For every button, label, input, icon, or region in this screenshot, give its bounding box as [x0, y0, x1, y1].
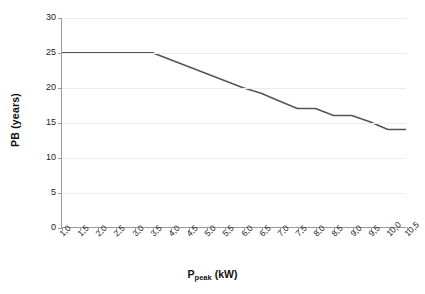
y-axis-title: PB (years)	[4, 0, 26, 240]
x-axis-title-subscript: peak	[195, 273, 212, 282]
y-axis-tick-mark	[58, 18, 62, 19]
y-axis-tick-label: 10	[30, 153, 56, 162]
y-axis-tick-label: 25	[30, 48, 56, 57]
gridline	[62, 193, 406, 194]
y-axis-tick-label: 0	[30, 223, 56, 232]
gridline	[62, 18, 406, 19]
y-axis-tick-mark	[58, 53, 62, 54]
y-axis-tick-labels: 051015202530	[26, 0, 56, 240]
y-axis-tick-mark	[58, 123, 62, 124]
series-polyline	[62, 53, 406, 130]
x-axis-title-base: P	[188, 268, 195, 280]
y-axis-tick-mark	[58, 158, 62, 159]
y-axis-tick-label: 20	[30, 83, 56, 92]
payback-period-line-chart: PB (years) 051015202530 1,01,52,02,53,03…	[0, 0, 425, 294]
y-axis-tick-label: 15	[30, 118, 56, 127]
x-axis-title: Ppeak (kW)	[0, 268, 425, 280]
plot-area	[61, 18, 406, 228]
y-axis-tick-mark	[58, 193, 62, 194]
x-axis-title-unit: (kW)	[212, 268, 238, 280]
gridline	[62, 53, 406, 54]
y-axis-tick-mark	[58, 88, 62, 89]
gridline	[62, 88, 406, 89]
y-axis-title-label: PB (years)	[9, 93, 21, 147]
y-axis-tick-label: 30	[30, 13, 56, 22]
gridline	[62, 158, 406, 159]
gridline	[62, 123, 406, 124]
y-axis-tick-label: 5	[30, 188, 56, 197]
